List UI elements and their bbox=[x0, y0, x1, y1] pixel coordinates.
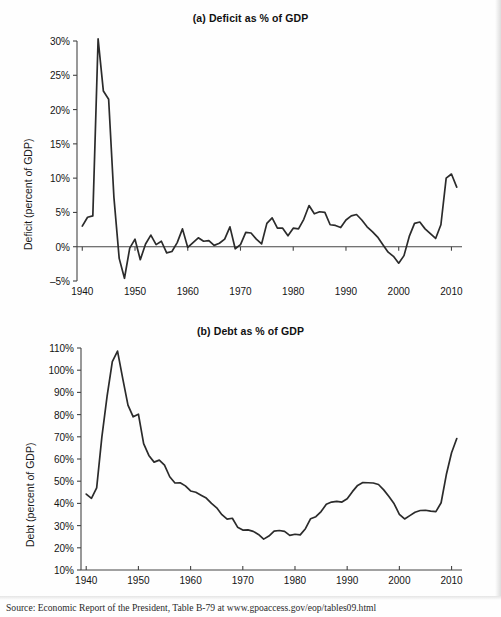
chart-x-tick-label: 1980 bbox=[282, 286, 304, 297]
chart-y-tick-label: 15% bbox=[0, 138, 70, 149]
chart-y-tick-label: 0% bbox=[0, 241, 70, 252]
chart-x-tick-label: 1970 bbox=[229, 286, 251, 297]
chart-x-tick-label: 1940 bbox=[75, 575, 97, 586]
chart-b-plot-area: 10%20%30%40%50%60%70%80%90%100%110%19401… bbox=[0, 307, 501, 595]
chart-y-tick-label: 10% bbox=[0, 173, 70, 184]
chart-y-tick-label: 70% bbox=[0, 431, 74, 442]
chart-x-tick-label: 1960 bbox=[177, 286, 199, 297]
chart-x-tick-label: 1990 bbox=[336, 575, 358, 586]
chart-x-tick-label: 1980 bbox=[284, 575, 306, 586]
chart-x-tick-label: 1970 bbox=[232, 575, 254, 586]
chart-a-svg bbox=[0, 0, 501, 307]
chart-y-tick-label: 10% bbox=[0, 565, 74, 576]
chart-y-tick-label: 30% bbox=[0, 520, 74, 531]
page-bottom-edge-shadow bbox=[0, 596, 501, 600]
deficit-chart-panel: (a) Deficit as % of GDP Deficit (percent… bbox=[0, 0, 501, 307]
chart-y-tick-label: 80% bbox=[0, 409, 74, 420]
chart-y-tick-label: 50% bbox=[0, 476, 74, 487]
chart-x-tick-label: 1950 bbox=[124, 286, 146, 297]
figure-page: (a) Deficit as % of GDP Deficit (percent… bbox=[0, 0, 501, 617]
chart-y-tick-label: 100% bbox=[0, 365, 74, 376]
chart-y-tick-label: 90% bbox=[0, 387, 74, 398]
source-note: Source: Economic Report of the President… bbox=[6, 602, 501, 613]
chart-y-tick-label: 20% bbox=[0, 104, 70, 115]
chart-data-line bbox=[82, 39, 456, 278]
chart-y-tick-label: 30% bbox=[0, 36, 70, 47]
chart-y-tick-label: 5% bbox=[0, 207, 70, 218]
chart-b-svg bbox=[0, 307, 501, 595]
chart-y-tick-label: 60% bbox=[0, 454, 74, 465]
chart-x-tick-label: 2010 bbox=[440, 575, 462, 586]
chart-a-plot-area: –5%0%5%10%15%20%25%30%194019501960197019… bbox=[0, 0, 501, 307]
chart-x-tick-label: 1960 bbox=[179, 575, 201, 586]
chart-x-tick-label: 2000 bbox=[388, 286, 410, 297]
chart-x-tick-label: 2000 bbox=[388, 575, 410, 586]
chart-data-line bbox=[86, 351, 457, 539]
chart-x-tick-label: 1940 bbox=[71, 286, 93, 297]
chart-y-tick-label: –5% bbox=[0, 276, 70, 287]
chart-y-tick-label: 40% bbox=[0, 498, 74, 509]
chart-y-tick-label: 110% bbox=[0, 343, 74, 354]
chart-x-tick-label: 1950 bbox=[127, 575, 149, 586]
chart-x-tick-label: 2010 bbox=[440, 286, 462, 297]
debt-chart-panel: (b) Debt as % of GDP Debt (percent of GD… bbox=[0, 307, 501, 595]
chart-x-tick-label: 1990 bbox=[335, 286, 357, 297]
chart-y-tick-label: 25% bbox=[0, 70, 70, 81]
chart-y-tick-label: 20% bbox=[0, 542, 74, 553]
